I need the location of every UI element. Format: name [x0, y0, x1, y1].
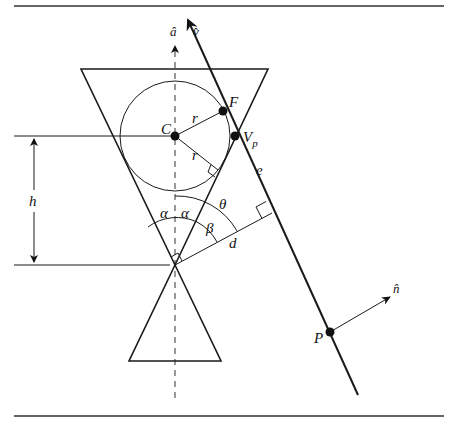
- label-theta: θ: [219, 196, 227, 212]
- radius-to-F: [175, 111, 223, 136]
- label-ray-dir: v̂: [193, 24, 199, 39]
- point-Vp: [231, 132, 240, 141]
- label-d: d: [229, 235, 237, 251]
- label-h: h: [29, 193, 37, 209]
- label-r-top: r: [192, 110, 198, 126]
- ray-e: [188, 20, 358, 395]
- label-alpha-right: α: [181, 205, 190, 221]
- lower-cone: [129, 265, 221, 361]
- distance-d-line: [175, 213, 272, 265]
- normal-vector: [330, 297, 390, 332]
- point-P: [326, 328, 335, 337]
- point-F: [219, 107, 228, 116]
- label-alpha-left: α: [160, 205, 169, 221]
- label-normal: n̂: [393, 281, 400, 296]
- cone-sphere-diagram: â v̂ C F Vp r r e h α α θ β d P n̂: [0, 0, 449, 427]
- label-beta: β: [205, 220, 214, 236]
- label-r-bottom: r: [192, 147, 198, 163]
- right-angle-marker-perp: [256, 202, 266, 219]
- label-e: e: [256, 162, 263, 178]
- point-C: [171, 132, 180, 141]
- label-axis: â: [170, 24, 177, 39]
- label-C: C: [161, 121, 172, 137]
- label-F: F: [228, 94, 239, 110]
- label-P: P: [313, 330, 323, 346]
